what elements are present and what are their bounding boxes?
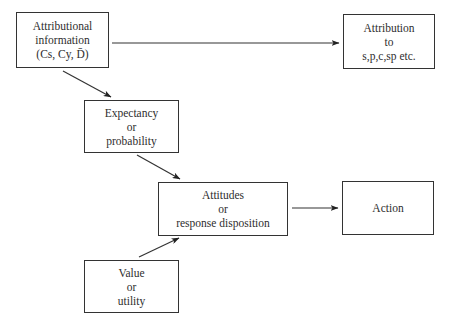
node-line: or — [127, 280, 137, 294]
node-line: s,p,c,sp etc. — [362, 49, 415, 63]
node-line: Value — [118, 266, 144, 280]
node-attributional-information: Attributional information (Cs, Cy, D̄) — [16, 12, 109, 68]
node-line: (Cs, Cy, D̄) — [36, 47, 88, 61]
node-line: information — [35, 33, 89, 47]
node-attribution: Attribution to s,p,c,sp etc. — [343, 14, 435, 69]
node-line: utility — [118, 294, 145, 308]
node-line: probability — [106, 134, 156, 148]
arrow-expectancy-to-attitudes — [137, 155, 180, 179]
node-line: response disposition — [176, 216, 270, 230]
node-line: or — [127, 120, 137, 134]
node-line: Action — [372, 201, 403, 215]
node-action: Action — [342, 181, 434, 235]
node-attitudes: Attitudes or response disposition — [158, 182, 288, 236]
node-line: Attitudes — [202, 188, 244, 202]
flow-diagram: Attributional information (Cs, Cy, D̄) A… — [0, 0, 449, 327]
node-line: Attribution — [363, 21, 414, 35]
node-value: Value or utility — [84, 260, 179, 313]
node-line: to — [385, 35, 394, 49]
arrow-attributional-information-to-expectancy — [63, 71, 111, 97]
node-line: or — [218, 202, 228, 216]
node-line: Attributional — [33, 19, 92, 33]
node-line: Expectancy — [105, 106, 159, 120]
node-expectancy: Expectancy or probability — [84, 100, 179, 153]
arrow-value-to-attitudes — [139, 238, 179, 257]
